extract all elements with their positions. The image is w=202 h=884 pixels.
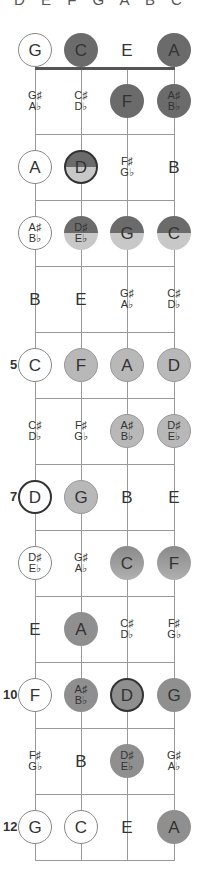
note-marker[interactable]: C♯D♭ [64, 84, 98, 118]
note-marker[interactable]: B [18, 282, 52, 316]
note-marker[interactable]: A [64, 612, 98, 646]
note-marker[interactable]: G♯A♭ [64, 546, 98, 580]
note-marker[interactable]: A♯B♭ [64, 678, 98, 712]
note-label-alt: D♭ [168, 299, 181, 310]
note-marker[interactable]: C [64, 33, 98, 67]
fret-number: 10 [3, 687, 17, 702]
fret-line [35, 860, 175, 861]
note-marker[interactable]: C [18, 348, 52, 382]
note-marker[interactable]: A♯B♭ [18, 216, 52, 250]
note-label-alt: G♭ [167, 629, 181, 640]
note-label: A [168, 819, 179, 836]
note-marker[interactable]: A [157, 33, 191, 67]
note-label-alt: B♭ [168, 101, 180, 112]
note-label: A [29, 159, 40, 176]
note-marker[interactable]: G♯A♭ [157, 744, 191, 778]
note-label-alt: A♭ [168, 761, 180, 772]
note-marker[interactable]: E [18, 612, 52, 646]
note-marker[interactable]: C♯D♭ [110, 612, 144, 646]
note-marker[interactable]: C♯D♭ [157, 282, 191, 316]
note-marker[interactable]: G♯A♭ [18, 84, 52, 118]
note-label: A [168, 42, 179, 59]
nut [35, 67, 175, 70]
note-label: B [168, 159, 179, 176]
note-label: C [168, 225, 180, 242]
note-marker[interactable]: F♯G♭ [64, 414, 98, 448]
note-marker[interactable]: D [64, 150, 98, 184]
note-marker[interactable]: A♯B♭ [157, 84, 191, 118]
note-label-alt: B♭ [75, 695, 87, 706]
note-marker[interactable]: D [157, 348, 191, 382]
note-label: A [121, 357, 132, 374]
note-marker[interactable]: F♯G♭ [110, 150, 144, 184]
note-label-alt: E♭ [121, 761, 133, 772]
note-marker[interactable]: C♯D♭ [18, 414, 52, 448]
note-label: E [168, 489, 179, 506]
note-marker[interactable]: E [157, 480, 191, 514]
note-label-alt: B♭ [29, 233, 41, 244]
note-label: G [167, 687, 180, 704]
note-marker[interactable]: D [110, 678, 144, 712]
note-label-alt: D♭ [121, 629, 134, 640]
note-label: D [75, 159, 87, 176]
note-marker[interactable]: A [18, 150, 52, 184]
note-marker[interactable]: D♯E♭ [157, 414, 191, 448]
note-marker[interactable]: E [110, 810, 144, 844]
note-marker[interactable]: D♯E♭ [110, 744, 144, 778]
note-marker[interactable]: E [110, 33, 144, 67]
note-marker[interactable]: F [157, 546, 191, 580]
note-marker[interactable]: A [110, 348, 144, 382]
note-label-alt: G♭ [120, 167, 134, 178]
note-label: B [121, 489, 132, 506]
note-label-alt: E♭ [75, 233, 87, 244]
note-marker[interactable]: F [64, 348, 98, 382]
note-label: E [121, 819, 132, 836]
note-marker[interactable]: G [110, 216, 144, 250]
note-marker[interactable]: D♯E♭ [64, 216, 98, 250]
fret-line [35, 596, 175, 597]
note-label: B [75, 753, 86, 770]
note-label: F [76, 357, 86, 374]
note-label: D [29, 489, 41, 506]
note-label: C [121, 555, 133, 572]
note-marker[interactable]: C [110, 546, 144, 580]
fret-number: 7 [10, 489, 17, 504]
note-marker[interactable]: G♯A♭ [110, 282, 144, 316]
note-label: D [121, 687, 133, 704]
note-marker[interactable]: G [18, 33, 52, 67]
fret-line [35, 530, 175, 531]
note-marker[interactable]: B [64, 744, 98, 778]
note-marker[interactable]: F♯G♭ [18, 744, 52, 778]
fret-line [35, 728, 175, 729]
note-marker[interactable]: C [64, 810, 98, 844]
note-marker[interactable]: G [18, 810, 52, 844]
note-label: F [169, 555, 179, 572]
fret-line [35, 794, 175, 795]
note-label: E [75, 291, 86, 308]
note-marker[interactable]: F♯G♭ [157, 612, 191, 646]
note-marker[interactable]: A [157, 810, 191, 844]
note-marker[interactable]: D [18, 480, 52, 514]
fret-line [35, 662, 175, 663]
fret-line [35, 398, 175, 399]
note-marker[interactable]: F [18, 678, 52, 712]
note-label-alt: B♭ [121, 431, 133, 442]
note-marker[interactable]: F [110, 84, 144, 118]
note-label: C [75, 42, 87, 59]
fret-line [35, 134, 175, 135]
note-marker[interactable]: B [110, 480, 144, 514]
note-marker[interactable]: C [157, 216, 191, 250]
note-marker[interactable]: A♯B♭ [110, 414, 144, 448]
note-label: F [30, 687, 40, 704]
note-marker[interactable]: G [157, 678, 191, 712]
note-marker[interactable]: G [64, 480, 98, 514]
note-marker[interactable]: B [157, 150, 191, 184]
note-marker[interactable]: E [64, 282, 98, 316]
fret-number: 12 [3, 819, 17, 834]
note-marker[interactable]: D♯E♭ [18, 546, 52, 580]
note-label: G [74, 489, 87, 506]
note-label-alt: A♭ [75, 563, 87, 574]
note-label-alt: D♭ [75, 101, 88, 112]
note-label: A [75, 621, 86, 638]
fret-number: 5 [10, 357, 17, 372]
